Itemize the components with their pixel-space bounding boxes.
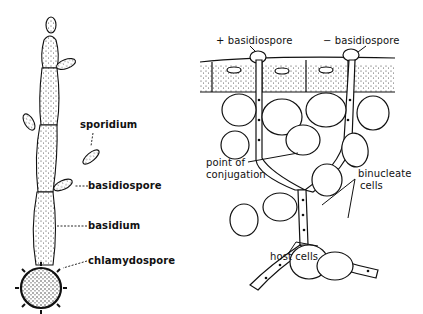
label-chlamydospore: chlamydospore bbox=[88, 255, 175, 266]
side-spore-3 bbox=[52, 177, 74, 194]
label-basidiospore: basidiospore bbox=[88, 180, 162, 191]
left-leader-lines bbox=[57, 133, 93, 268]
label-sporidium: sporidium bbox=[80, 119, 137, 130]
side-spore-2 bbox=[21, 112, 38, 132]
segment-3 bbox=[36, 125, 57, 192]
host-epidermis bbox=[200, 49, 395, 92]
label-conjugation: conjugation bbox=[206, 169, 266, 180]
label-minus-basidiospore: − basidiospore bbox=[323, 35, 399, 46]
chlamydospore bbox=[15, 262, 67, 314]
label-binucleate: binucleate bbox=[358, 168, 411, 179]
label-cells: cells bbox=[360, 180, 383, 191]
label-host-cells: host cells bbox=[270, 251, 318, 262]
segment-2 bbox=[40, 68, 59, 125]
segment-1 bbox=[42, 36, 59, 68]
label-point-of: point of bbox=[206, 157, 245, 168]
label-plus-basidiospore: + basidiospore bbox=[216, 35, 292, 46]
apical-sporidium bbox=[46, 17, 56, 33]
segment-4 bbox=[33, 192, 55, 265]
label-basidium: basidium bbox=[88, 220, 140, 231]
sporidium bbox=[81, 148, 101, 167]
